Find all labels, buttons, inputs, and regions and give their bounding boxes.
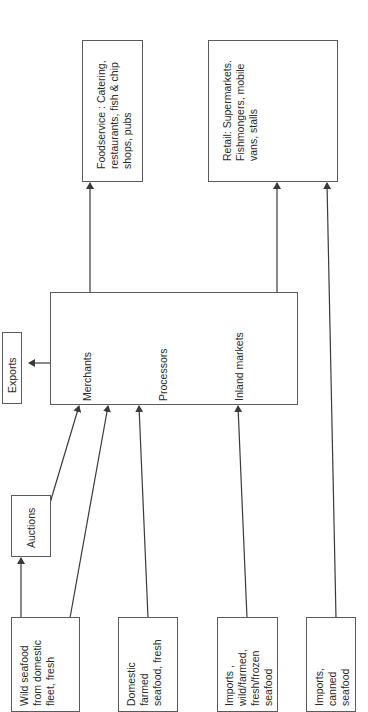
source-wild-seafood-box: Wild seafood from domestic fleet, fresh bbox=[11, 617, 80, 712]
retail-line-2: Fishmongers, mobile bbox=[234, 60, 247, 161]
foodservice-line-3: shops, pubs bbox=[121, 60, 134, 169]
auctions-label: Auctions bbox=[25, 508, 38, 548]
source-imports-canned-box: Imports, canned seafood bbox=[306, 617, 356, 712]
imports-canned-line-3: seafood bbox=[339, 668, 352, 706]
exports-box: Exports bbox=[2, 332, 22, 404]
imports-fresh-line-3: fresh/frozen bbox=[249, 649, 262, 706]
domestic-line-3: seafood, fresh bbox=[151, 639, 164, 706]
merchants-label: Merchants bbox=[81, 352, 94, 401]
auctions-box: Auctions bbox=[11, 495, 51, 557]
imports-fresh-line-2: wild/farmed, bbox=[236, 649, 249, 706]
foodservice-line-2: restaurants, fish & chip bbox=[108, 60, 121, 169]
domestic-line-2: farmed bbox=[138, 639, 151, 706]
domestic-line-1: Domestic bbox=[125, 639, 138, 706]
source-imports-fresh-label: Imports , wild/farmed, fresh/frozen seaf… bbox=[223, 649, 275, 706]
imports-fresh-line-1: Imports , bbox=[223, 649, 236, 706]
imports-fresh-line-4: seafood bbox=[262, 649, 275, 706]
hub-box: Merchants Processors Inland markets bbox=[50, 292, 298, 405]
inland-markets-label: Inland markets bbox=[233, 332, 246, 401]
foodservice-box: Foodservice : Catering, restaurants, fis… bbox=[82, 40, 143, 182]
wild-line-1: Wild seafood bbox=[18, 640, 31, 706]
retail-label: Retail: Supermarkets. Fishmongers, mobil… bbox=[221, 60, 260, 161]
source-wild-seafood-label: Wild seafood from domestic fleet, fresh bbox=[18, 640, 57, 706]
wild-line-3: fleet, fresh bbox=[44, 640, 57, 706]
wild-line-2: from domestic bbox=[31, 640, 44, 706]
exports-label: Exports bbox=[6, 357, 19, 393]
retail-line-1: Retail: Supermarkets. bbox=[221, 60, 234, 161]
source-domestic-farmed-label: Domestic farmed seafood, fresh bbox=[125, 639, 164, 706]
foodservice-line-1: Foodservice : Catering, bbox=[95, 60, 108, 169]
source-domestic-farmed-box: Domestic farmed seafood, fresh bbox=[118, 617, 178, 712]
retail-line-3: vans, stalls bbox=[247, 60, 260, 161]
foodservice-label: Foodservice : Catering, restaurants, fis… bbox=[95, 60, 134, 169]
imports-canned-line-1: Imports, bbox=[313, 668, 326, 706]
processors-label: Processors bbox=[157, 348, 170, 401]
retail-box: Retail: Supermarkets. Fishmongers, mobil… bbox=[208, 40, 338, 182]
imports-canned-line-2: canned bbox=[326, 668, 339, 706]
source-imports-canned-label: Imports, canned seafood bbox=[313, 668, 352, 706]
source-imports-fresh-box: Imports , wild/farmed, fresh/frozen seaf… bbox=[217, 617, 278, 712]
